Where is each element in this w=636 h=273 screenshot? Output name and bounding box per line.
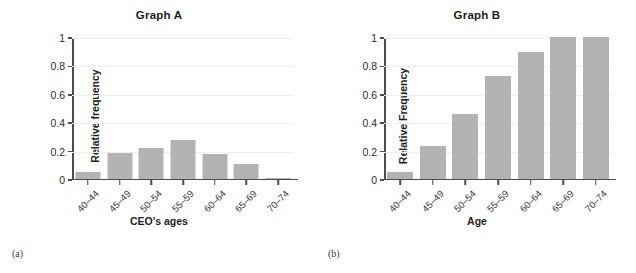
x-tick-mark [214, 180, 216, 185]
x-tick-mark [151, 180, 153, 185]
y-axis-label-b: Relative Frequency [397, 57, 409, 175]
y-tick-label: 0.2 [50, 146, 65, 158]
x-tick-mark [562, 180, 564, 185]
y-tick-mark [380, 37, 384, 39]
x-axis-label-a: CEO's ages [0, 215, 318, 227]
gridline-0.8 [72, 66, 294, 67]
bar-55-59 [171, 140, 196, 179]
x-tick-label: 55–59 [485, 188, 511, 214]
y-tick-mark [68, 151, 72, 153]
x-tick-label: 45–49 [420, 188, 446, 214]
y-tick-label: 0.2 [362, 146, 377, 158]
y-tick-mark [380, 179, 384, 181]
bar-40-44 [387, 172, 413, 179]
bar-45-49 [107, 153, 132, 179]
y-tick-mark [380, 94, 384, 96]
bar-45-49 [420, 146, 446, 179]
bar-70-74 [583, 37, 609, 179]
x-tick-label: 45–49 [106, 188, 132, 214]
bar-50-54 [139, 148, 164, 179]
x-tick-mark [87, 180, 89, 185]
y-tick-mark [68, 122, 72, 124]
panel-graph-b: Graph B Relative Frequency 00.20.40.60.8… [318, 0, 636, 273]
y-tick-mark [380, 151, 384, 153]
y-tick-label: 0 [371, 174, 377, 186]
y-axis-line-b [384, 38, 386, 180]
gridline-0.8 [384, 66, 612, 67]
x-tick-mark [246, 180, 248, 185]
y-tick-mark [380, 122, 384, 124]
y-axis-line-a [72, 38, 74, 180]
y-tick-label: 0.8 [362, 60, 377, 72]
plot-area-b: Relative Frequency 00.20.40.60.81 40–444… [384, 38, 612, 180]
bar-60-64 [518, 52, 544, 179]
x-tick-label: 60–64 [201, 188, 227, 214]
x-tick-mark [277, 180, 279, 185]
x-tick-label: 70–74 [265, 188, 291, 214]
bar-55-59 [485, 76, 511, 179]
y-tick-mark [68, 179, 72, 181]
bar-60-64 [202, 154, 227, 179]
x-tick-mark [432, 180, 434, 185]
plot-area-a: Relative frequency 00.20.40.60.81 40–444… [72, 38, 294, 180]
x-tick-label: 40–44 [75, 188, 101, 214]
bar-65-69 [550, 37, 576, 179]
y-tick-mark [68, 94, 72, 96]
y-tick-label: 0.6 [362, 89, 377, 101]
y-tick-mark [380, 66, 384, 68]
y-tick-label: 0.4 [362, 117, 377, 129]
y-tick-label: 1 [371, 32, 377, 44]
x-tick-mark [595, 180, 597, 185]
x-tick-label: 60–64 [517, 188, 543, 214]
chart-title-b: Graph B [318, 9, 636, 21]
figure-two-panel-histograms: Graph A Relative frequency 00.20.40.60.8… [0, 0, 636, 273]
x-tick-mark [465, 180, 467, 185]
x-tick-label: 40–44 [387, 188, 413, 214]
y-tick-label: 0.8 [50, 60, 65, 72]
x-tick-label: 70–74 [582, 188, 608, 214]
x-tick-label: 55–59 [170, 188, 196, 214]
gridline-1 [384, 38, 612, 39]
x-tick-label: 65–69 [550, 188, 576, 214]
bar-40-44 [75, 172, 100, 179]
y-tick-label: 1 [59, 32, 65, 44]
y-tick-mark [68, 66, 72, 68]
gridline-1 [72, 38, 294, 39]
x-tick-mark [497, 180, 499, 185]
subcaption-a: (a) [12, 248, 23, 259]
y-tick-mark [68, 37, 72, 39]
bar-65-69 [234, 164, 259, 179]
bar-50-54 [452, 114, 478, 179]
x-axis-label-b: Age [318, 215, 636, 227]
y-tick-label: 0.4 [50, 117, 65, 129]
x-tick-mark [400, 180, 402, 185]
x-tick-label: 50–54 [452, 188, 478, 214]
x-tick-label: 65–69 [233, 188, 259, 214]
chart-title-a: Graph A [0, 9, 318, 21]
x-tick-label: 50–54 [138, 188, 164, 214]
subcaption-b: (b) [328, 248, 340, 259]
x-tick-mark [530, 180, 532, 185]
y-tick-label: 0.6 [50, 89, 65, 101]
y-tick-label: 0 [59, 174, 65, 186]
bar-70-74 [266, 178, 291, 179]
x-tick-mark [119, 180, 121, 185]
gridline-0.4 [72, 123, 294, 124]
y-axis-label-a: Relative frequency [89, 58, 101, 174]
x-tick-mark [182, 180, 184, 185]
gridline-0.6 [72, 95, 294, 96]
panel-graph-a: Graph A Relative frequency 00.20.40.60.8… [0, 0, 318, 273]
